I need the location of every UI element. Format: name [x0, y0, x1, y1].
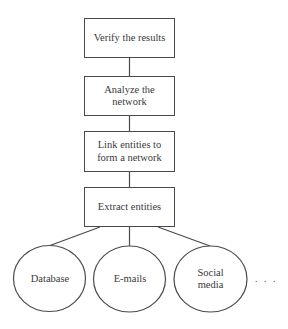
step-verify-label: Verify the results — [94, 32, 166, 45]
step-link-label: Link entities to form a network — [89, 139, 170, 164]
source-social-text: Social media — [191, 267, 231, 292]
flowchart-canvas: Verify the results Analyze the network L… — [0, 0, 288, 329]
step-analyze-network: Analyze the network — [84, 76, 175, 116]
source-database-text: Database — [31, 273, 69, 286]
step-verify-results: Verify the results — [84, 18, 175, 58]
connector-database-to-extract — [50, 227, 100, 246]
connector-social-to-extract — [158, 227, 210, 246]
source-social-label: Social media — [174, 246, 247, 312]
more-sources-ellipsis: . . . — [255, 273, 278, 284]
step-link-entities: Link entities to form a network — [84, 131, 175, 172]
step-analyze-label: Analyze the network — [98, 84, 162, 109]
step-extract-entities: Extract entities — [84, 187, 175, 227]
step-extract-label: Extract entities — [98, 201, 161, 214]
source-database-label: Database — [14, 246, 86, 312]
source-emails-text: E-mails — [114, 273, 147, 286]
source-emails-label: E-mails — [94, 246, 166, 312]
